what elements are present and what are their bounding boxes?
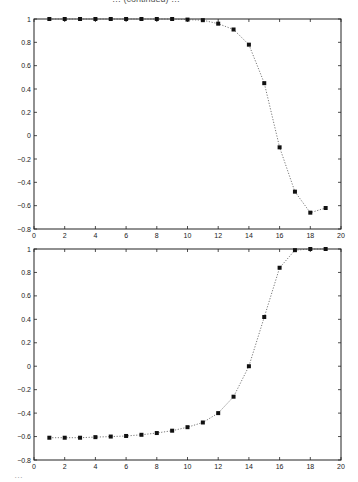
data-point-marker: [63, 436, 67, 440]
data-point-marker: [63, 17, 67, 21]
y-tick-label: −0.8: [17, 457, 31, 464]
x-tick-label: 6: [124, 232, 128, 239]
data-point-marker: [324, 247, 328, 251]
x-tick-label: 18: [306, 463, 314, 470]
data-point-marker: [262, 81, 266, 85]
y-tick-label: 0: [27, 363, 31, 370]
axes-box: [34, 19, 341, 229]
chart-bottom: 02468101214161820−0.8−0.6−0.4−0.200.20.4…: [17, 246, 345, 471]
y-tick-label: 0.4: [21, 86, 31, 93]
data-point-marker: [139, 433, 143, 437]
x-tick-label: 8: [155, 463, 159, 470]
x-tick-label: 4: [93, 232, 97, 239]
y-tick-label: 0.8: [21, 39, 31, 46]
data-line: [49, 249, 325, 438]
data-point-marker: [139, 17, 143, 21]
x-tick-label: 16: [276, 463, 284, 470]
y-tick-label: −0.4: [17, 179, 31, 186]
y-tick-label: 0.2: [21, 109, 31, 116]
data-point-marker: [186, 18, 190, 22]
data-point-marker: [278, 145, 282, 149]
y-tick-label: 0.8: [21, 269, 31, 276]
data-point-marker: [232, 395, 236, 399]
y-tick-label: 1: [27, 16, 31, 23]
x-tick-label: 2: [63, 232, 67, 239]
data-point-marker: [186, 425, 190, 429]
data-line: [49, 19, 325, 213]
chart-top: 02468101214161820−0.8−0.6−0.4−0.200.20.4…: [17, 16, 345, 240]
y-tick-label: −0.8: [17, 226, 31, 233]
data-point-marker: [124, 17, 128, 21]
x-tick-label: 12: [214, 463, 222, 470]
data-point-marker: [324, 206, 328, 210]
y-tick-label: 0.6: [21, 292, 31, 299]
data-point-marker: [109, 17, 113, 21]
data-point-marker: [93, 17, 97, 21]
y-tick-label: −0.4: [17, 410, 31, 417]
x-tick-label: 20: [337, 463, 345, 470]
y-tick-label: 0.4: [21, 316, 31, 323]
data-point-marker: [247, 364, 251, 368]
data-point-marker: [47, 436, 51, 440]
x-tick-label: 10: [184, 463, 192, 470]
data-point-marker: [278, 266, 282, 270]
data-point-marker: [247, 43, 251, 47]
y-tick-label: −0.6: [17, 433, 31, 440]
data-point-marker: [155, 17, 159, 21]
y-tick-label: 1: [27, 246, 31, 253]
x-tick-label: 6: [124, 463, 128, 470]
data-point-marker: [170, 17, 174, 21]
data-point-marker: [308, 211, 312, 215]
x-tick-label: 18: [306, 232, 314, 239]
data-point-marker: [262, 315, 266, 319]
cropped-text-bottom: …: [14, 470, 23, 480]
x-tick-label: 2: [63, 463, 67, 470]
data-point-marker: [293, 190, 297, 194]
data-point-marker: [93, 435, 97, 439]
figure: 02468101214161820−0.8−0.6−0.4−0.200.20.4…: [0, 0, 358, 482]
x-tick-label: 8: [155, 232, 159, 239]
y-tick-label: 0.2: [21, 339, 31, 346]
y-tick-label: −0.6: [17, 202, 31, 209]
x-tick-label: 16: [276, 232, 284, 239]
data-point-marker: [308, 247, 312, 251]
y-tick-label: 0: [27, 132, 31, 139]
data-point-marker: [170, 429, 174, 433]
x-tick-label: 0: [32, 463, 36, 470]
x-tick-label: 12: [214, 232, 222, 239]
data-point-marker: [216, 22, 220, 26]
x-tick-label: 14: [245, 463, 253, 470]
x-tick-label: 0: [32, 232, 36, 239]
data-point-marker: [78, 17, 82, 21]
x-tick-label: 10: [184, 232, 192, 239]
data-point-marker: [155, 431, 159, 435]
data-point-marker: [232, 28, 236, 32]
y-tick-label: −0.2: [17, 156, 31, 163]
y-tick-label: −0.2: [17, 386, 31, 393]
data-point-marker: [293, 248, 297, 252]
data-point-marker: [109, 435, 113, 439]
y-tick-label: 0.6: [21, 62, 31, 69]
x-tick-label: 20: [337, 232, 345, 239]
x-tick-label: 4: [93, 463, 97, 470]
data-point-marker: [78, 436, 82, 440]
data-point-marker: [201, 18, 205, 22]
data-point-marker: [47, 17, 51, 21]
x-tick-label: 14: [245, 232, 253, 239]
data-point-marker: [201, 420, 205, 424]
data-point-marker: [216, 411, 220, 415]
data-point-marker: [124, 434, 128, 438]
